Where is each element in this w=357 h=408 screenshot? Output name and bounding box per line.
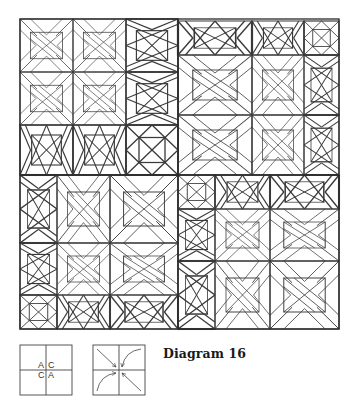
key-label-tl: A bbox=[38, 360, 44, 370]
rotation-key-diagram bbox=[93, 345, 145, 395]
arrow-top-left-icon bbox=[97, 349, 116, 367]
quadrant-bottom-left bbox=[20, 175, 178, 329]
key-label-tr: C bbox=[48, 360, 55, 370]
quadrant-top-left bbox=[20, 19, 178, 175]
arrow-bottom-left-icon bbox=[97, 373, 116, 391]
arrow-bottom-right-icon bbox=[122, 373, 141, 391]
quadrant-bottom-right bbox=[178, 175, 339, 329]
quadrant-top-right bbox=[178, 21, 339, 175]
arrow-top-right-icon bbox=[122, 349, 141, 367]
key-label-br: A bbox=[48, 370, 54, 380]
diagram-caption: Diagram 16 bbox=[163, 346, 246, 361]
placement-key-diagram: A C C A bbox=[20, 345, 72, 395]
key-label-bl: C bbox=[38, 370, 45, 380]
